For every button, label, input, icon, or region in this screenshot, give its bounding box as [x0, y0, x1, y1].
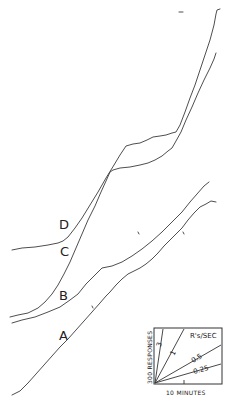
curve-label-c: C — [60, 244, 69, 259]
curve-b — [12, 182, 209, 323]
curve-label-b: B — [59, 288, 68, 303]
legend-x-axis-label: 10 MINUTES — [166, 389, 206, 396]
curve-d — [12, 9, 220, 250]
cumulative-record-chart: D C B A 3 1 0.5 0.25 R's/SEC 300 RESPONS… — [0, 0, 228, 403]
curve-label-d: D — [59, 217, 69, 232]
slope-line-025 — [155, 364, 221, 383]
tick-mark — [92, 306, 93, 308]
legend-y-axis-label: 300 RESPONSES — [146, 331, 153, 384]
slope-label-3: 3 — [155, 341, 164, 347]
curve-c — [10, 53, 216, 317]
slope-label-025: 0.25 — [192, 364, 209, 376]
tick-mark — [183, 232, 184, 234]
legend-title: R's/SEC — [190, 332, 217, 340]
slope-label-05: 0.5 — [190, 352, 204, 364]
curve-label-a: A — [59, 328, 68, 343]
tick-mark — [138, 232, 139, 234]
slope-legend: 3 1 0.5 0.25 R's/SEC 300 RESPONSES 10 MI… — [146, 328, 222, 396]
